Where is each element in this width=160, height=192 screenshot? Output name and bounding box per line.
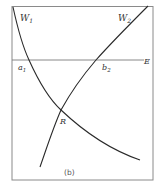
- label-w1: W1: [20, 13, 33, 24]
- label-e: E: [143, 57, 150, 66]
- curve-w1: [13, 7, 140, 160]
- label-r: R: [59, 117, 66, 126]
- frame: [12, 7, 153, 181]
- label-w2: W2: [118, 13, 131, 24]
- label-a1: a1: [18, 63, 26, 73]
- figure-caption: (b): [64, 168, 75, 177]
- label-b2: b2: [102, 63, 111, 73]
- curve-w2: [40, 6, 148, 167]
- diagram: W1 W2 a1 b2 E R (b): [0, 0, 160, 192]
